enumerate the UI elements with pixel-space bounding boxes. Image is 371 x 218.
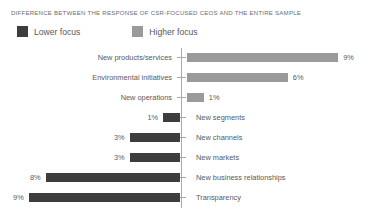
legend-label-higher-focus: Higher focus [149,27,197,37]
chart-bar [163,113,180,122]
chart-row: New markets3% [0,148,371,168]
value-label: 1% [209,93,220,102]
value-label: 3% [110,153,125,162]
chart-bar [46,173,180,182]
chart-bar [187,53,338,62]
value-label: 9% [9,193,24,202]
category-label: New business relationships [196,173,286,182]
chart-bar [29,193,180,202]
chart-row: New segments1% [0,108,371,128]
chart-row: New operations1% [0,88,371,108]
chart-title: DIFFERENCE BETWEEN THE RESPONSE OF CSR-F… [11,9,301,16]
category-label: Environmental initiatives [92,73,172,82]
value-label: 8% [26,173,41,182]
value-label: 6% [293,73,304,82]
category-label: New products/services [98,53,172,62]
chart-row: Transparency9% [0,188,371,208]
legend-item-higher-focus: Higher focus [132,26,197,37]
chart-row: New products/services9% [0,48,371,68]
chart-bar [187,73,288,82]
chart-row: New business relationships8% [0,168,371,188]
category-label: New channels [196,133,242,142]
category-label: Transparency [196,193,241,202]
category-label: New segments [196,113,245,122]
axis-tick [177,77,186,78]
chart-legend: Lower focus Higher focus [17,26,198,37]
chart-bar [130,153,180,162]
legend-swatch-lower-focus [17,26,28,37]
category-label: New operations [121,93,172,102]
legend-label-lower-focus: Lower focus [34,27,80,37]
axis-tick [177,57,186,58]
chart-row: New channels3% [0,128,371,148]
legend-swatch-higher-focus [132,26,143,37]
value-label: 9% [343,53,354,62]
chart-bar [130,133,180,142]
value-label: 3% [110,133,125,142]
chart-container: DIFFERENCE BETWEEN THE RESPONSE OF CSR-F… [0,0,371,218]
chart-row: Environmental initiatives6% [0,68,371,88]
axis-tick [177,97,186,98]
legend-item-lower-focus: Lower focus [17,26,80,37]
value-label: 1% [143,113,158,122]
category-label: New markets [196,153,239,162]
chart-bar [187,93,204,102]
